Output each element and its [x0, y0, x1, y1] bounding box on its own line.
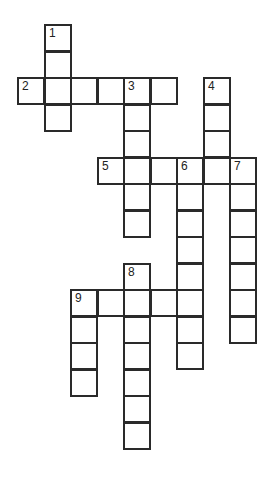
crossword-cell[interactable]	[176, 263, 204, 291]
crossword-cell[interactable]	[176, 183, 204, 211]
clue-number: 3	[128, 80, 135, 92]
crossword-cell[interactable]	[176, 210, 204, 238]
crossword-cell[interactable]	[150, 157, 178, 185]
crossword-cell[interactable]: 1	[44, 24, 72, 52]
crossword-cell[interactable]	[123, 130, 151, 158]
crossword-cell[interactable]	[229, 289, 257, 317]
crossword-cell[interactable]	[203, 104, 231, 132]
crossword-cell[interactable]	[70, 369, 98, 397]
crossword-cell[interactable]	[123, 422, 151, 450]
crossword-cell[interactable]	[123, 183, 151, 211]
crossword-cell[interactable]	[97, 77, 125, 105]
crossword-cell[interactable]: 7	[229, 157, 257, 185]
crossword-grid: 123456789	[0, 0, 269, 479]
crossword-cell[interactable]: 5	[97, 157, 125, 185]
clue-number: 1	[49, 27, 56, 39]
crossword-cell[interactable]: 4	[203, 77, 231, 105]
crossword-cell[interactable]	[97, 289, 125, 317]
crossword-cell[interactable]	[123, 369, 151, 397]
crossword-cell[interactable]	[70, 77, 98, 105]
crossword-cell[interactable]	[150, 289, 178, 317]
clue-number: 2	[22, 80, 29, 92]
crossword-cell[interactable]	[176, 342, 204, 370]
clue-number: 4	[208, 80, 215, 92]
crossword-cell[interactable]	[176, 316, 204, 344]
crossword-cell[interactable]: 6	[176, 157, 204, 185]
clue-number: 8	[128, 266, 135, 278]
crossword-cell[interactable]: 2	[17, 77, 45, 105]
crossword-cell[interactable]	[176, 289, 204, 317]
crossword-cell[interactable]	[123, 395, 151, 423]
crossword-cell[interactable]	[123, 289, 151, 317]
crossword-cell[interactable]	[44, 77, 72, 105]
crossword-cell[interactable]: 3	[123, 77, 151, 105]
crossword-cell[interactable]	[229, 183, 257, 211]
crossword-cell[interactable]	[123, 157, 151, 185]
crossword-cell[interactable]	[70, 316, 98, 344]
crossword-cell[interactable]: 9	[70, 289, 98, 317]
crossword-cell[interactable]	[44, 51, 72, 79]
crossword-cell[interactable]	[229, 210, 257, 238]
crossword-cell[interactable]	[123, 342, 151, 370]
clue-number: 6	[181, 160, 188, 172]
crossword-cell[interactable]	[123, 316, 151, 344]
crossword-cell[interactable]	[150, 77, 178, 105]
crossword-cell[interactable]	[229, 263, 257, 291]
crossword-cell[interactable]	[229, 316, 257, 344]
crossword-cell[interactable]: 8	[123, 263, 151, 291]
crossword-cell[interactable]	[44, 104, 72, 132]
crossword-cell[interactable]	[203, 157, 231, 185]
crossword-cell[interactable]	[229, 236, 257, 264]
crossword-cell[interactable]	[203, 130, 231, 158]
clue-number: 7	[234, 160, 241, 172]
crossword-cell[interactable]	[123, 104, 151, 132]
crossword-cell[interactable]	[176, 236, 204, 264]
crossword-cell[interactable]	[70, 342, 98, 370]
clue-number: 5	[102, 160, 109, 172]
crossword-cell[interactable]	[123, 210, 151, 238]
clue-number: 9	[75, 292, 82, 304]
